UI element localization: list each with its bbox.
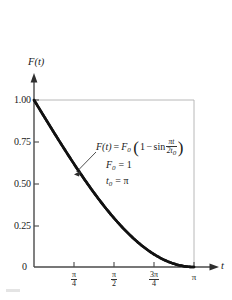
x-tick-label-3pi-over-4: 3π 4 xyxy=(144,271,164,288)
equation-lhs: F(t) xyxy=(96,141,112,152)
equation-sin: sin xyxy=(154,141,166,152)
y-tick-label-0-25: 0.25 xyxy=(0,221,31,231)
fraction-denominator: 4 xyxy=(149,280,159,288)
x-axis-arrow-icon xyxy=(210,263,220,270)
x-axis-label: t xyxy=(221,261,224,272)
parameter-f0: F0= 1 xyxy=(106,160,183,172)
fraction-pi-2: π 2 xyxy=(111,271,117,288)
fraction-3pi-4: 3π 4 xyxy=(149,271,159,288)
y-tick-label-0-75: 0.75 xyxy=(0,137,31,147)
annotation-leader-line xyxy=(77,152,97,172)
equation-fraction: πt 2t0 xyxy=(166,138,177,157)
parameter-f0-value: = 1 xyxy=(119,159,132,170)
x-tick-label-pi-over-2: π 2 xyxy=(104,271,124,288)
equation-open-paren: ( xyxy=(133,138,139,157)
equation-annotation: F(t)=F0(1−sin πt 2t0 ) F0= 1 t0= π xyxy=(96,138,183,188)
y-axis-label: F(t) xyxy=(28,57,44,68)
y-tick-label-0: 0 xyxy=(0,262,27,272)
equation-f0-subscript: 0 xyxy=(127,146,131,154)
parameter-t0-value: = π xyxy=(115,175,128,186)
x-tick-label-pi: π xyxy=(186,273,202,282)
equation-close-paren: ) xyxy=(178,138,184,157)
y-axis-arrow-icon xyxy=(31,73,38,83)
parameter-t0: t0= π xyxy=(106,176,183,188)
equation-equals: = xyxy=(114,141,120,152)
equation-main-line: F(t)=F0(1−sin πt 2t0 ) xyxy=(96,138,183,157)
parameter-f0-subscript: 0 xyxy=(112,164,116,172)
figure-container: F(t) t 1.00 0.75 0.50 0.25 0 π 4 π 2 3π … xyxy=(0,0,232,300)
parameter-t0-subscript: 0 xyxy=(109,180,113,188)
equation-one: 1 xyxy=(140,141,145,152)
fraction-pi-4: π 4 xyxy=(71,271,77,288)
equation-minus: − xyxy=(146,141,152,152)
fraction-denominator: 4 xyxy=(71,280,77,288)
fraction-denominator: 2 xyxy=(111,280,117,288)
y-tick-label-1-00: 1.00 xyxy=(0,95,31,105)
x-tick-label-pi-over-4: π 4 xyxy=(64,271,84,288)
y-tick-label-0-50: 0.50 xyxy=(0,179,31,189)
scan-artifact xyxy=(6,289,20,292)
fraction-denominator: 2t0 xyxy=(166,147,177,157)
